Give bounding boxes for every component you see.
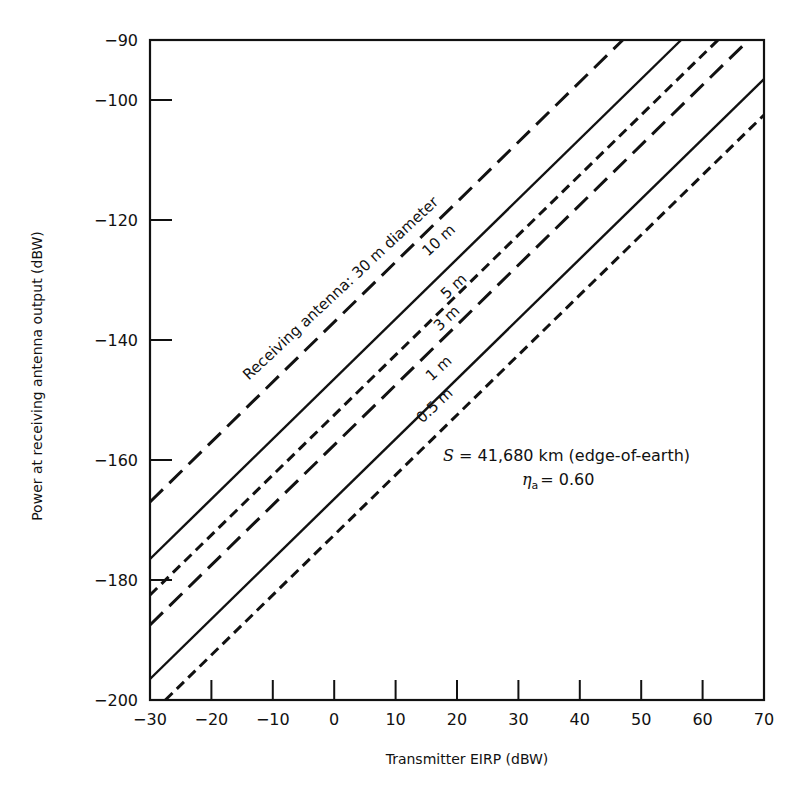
label-0-5m: 0.5 m — [413, 384, 457, 427]
series-line-1-m — [150, 79, 764, 679]
label-1m: 1 m — [422, 352, 455, 385]
series-line-3-m — [150, 40, 749, 625]
label-10m: 10 m — [418, 221, 458, 260]
y-tick-label: −200 — [94, 691, 138, 710]
series-labels: Receiving antenna: 30 m diameter 10 m 5 … — [239, 192, 470, 426]
line-chart: −90−100−120−140−160−180−200 −30−20−10010… — [0, 0, 807, 793]
y-tick-label: −100 — [94, 91, 138, 110]
label-3m: 3 m — [430, 302, 463, 335]
efficiency-variable: η — [522, 470, 532, 489]
y-axis-ticks: −90−100−120−140−160−180−200 — [94, 31, 172, 710]
x-tick-label: −10 — [256, 710, 290, 729]
x-tick-label: 20 — [447, 710, 467, 729]
label-30m: Receiving antenna: 30 m diameter — [239, 192, 442, 383]
x-axis-ticks: −30−20−10010203040506070 — [133, 680, 774, 729]
x-tick-label: 0 — [329, 710, 339, 729]
x-tick-label: 50 — [631, 710, 651, 729]
x-tick-label: 10 — [385, 710, 405, 729]
series-line-0-5-m — [165, 115, 764, 700]
range-value: = 41,680 km (edge-of-earth) — [454, 446, 690, 465]
y-tick-label: −180 — [94, 571, 138, 590]
efficiency-subscript: a — [532, 479, 539, 492]
x-tick-label: 40 — [570, 710, 590, 729]
x-tick-label: 30 — [508, 710, 528, 729]
y-tick-label: −120 — [94, 211, 138, 230]
range-variable: S — [443, 446, 454, 465]
y-tick-label: −140 — [94, 331, 138, 350]
range-annotation: S = 41,680 km (edge-of-earth) ηa= 0.60 — [443, 446, 690, 492]
x-tick-label: 60 — [692, 710, 712, 729]
svg-text:S = 41,680 km (edge-of-earth): S = 41,680 km (edge-of-earth) — [443, 446, 690, 465]
x-axis-title: Transmitter EIRP (dBW) — [385, 751, 549, 767]
series-line-10-m — [150, 40, 681, 559]
series-line-30-m — [150, 40, 623, 502]
x-tick-label: −30 — [133, 710, 167, 729]
x-tick-label: −20 — [195, 710, 229, 729]
x-tick-label: 70 — [754, 710, 774, 729]
svg-text:ηa= 0.60: ηa= 0.60 — [522, 470, 594, 492]
efficiency-value: = 0.60 — [540, 470, 594, 489]
y-tick-label: −90 — [104, 31, 138, 50]
y-tick-label: −160 — [94, 451, 138, 470]
y-axis-title: Power at receiving antenna output (dBW) — [29, 231, 45, 521]
